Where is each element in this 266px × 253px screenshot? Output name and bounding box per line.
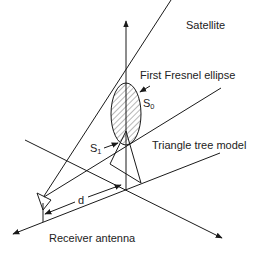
tree-label: Triangle tree model — [152, 139, 246, 151]
fresnel-diagram: Satellite First Fresnel ellipse S0 S1 Tr… — [0, 0, 266, 253]
s1-pointer — [104, 143, 118, 148]
satellite-label: Satellite — [186, 19, 225, 31]
distance-arrow-left — [45, 202, 75, 214]
satellite-ray — [44, 0, 171, 196]
cross-axis — [25, 140, 222, 238]
receiver-antenna-icon — [37, 193, 51, 222]
s0-label: S0 — [143, 97, 155, 111]
s0-pointer — [140, 86, 150, 92]
distance-arrow-right — [88, 185, 121, 197]
fresnel-label: First Fresnel ellipse — [140, 69, 235, 81]
receiver-label: Receiver antenna — [49, 232, 136, 244]
distance-label: d — [78, 194, 84, 206]
s1-label: S1 — [90, 142, 102, 156]
